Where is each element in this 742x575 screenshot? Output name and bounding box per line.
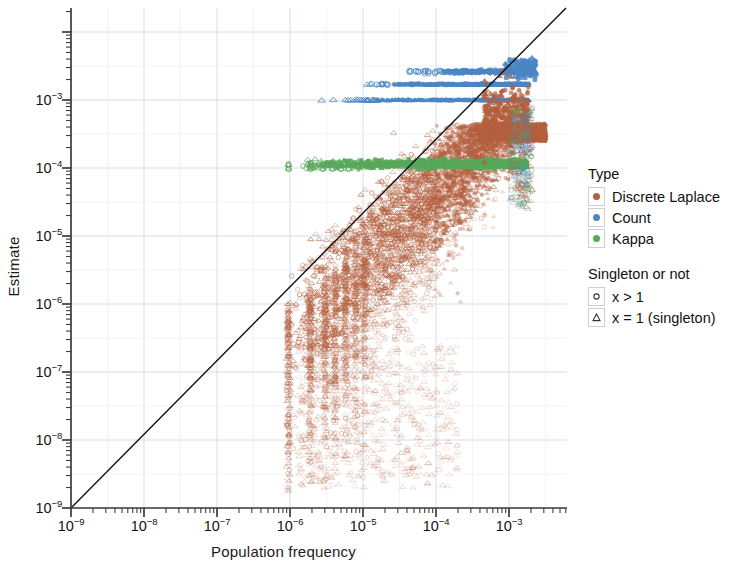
legend: Type Discrete LaplaceCountKappa Singleto… bbox=[588, 166, 742, 345]
tick-label: 10−4 bbox=[423, 516, 450, 534]
tick-label: 10−3 bbox=[496, 516, 523, 534]
scatter-plot-figure: Population frequency Estimate 10−910−810… bbox=[0, 0, 742, 575]
legend-group-singleton: Singleton or not x > 1x = 1 (singleton) bbox=[588, 266, 742, 328]
legend-item-label: x = 1 (singleton) bbox=[612, 310, 716, 326]
tick-label: 10−3 bbox=[4, 90, 62, 108]
tick-label: 10−7 bbox=[4, 362, 62, 380]
legend-color-swatch bbox=[588, 187, 605, 206]
tick-label: 10−6 bbox=[277, 516, 304, 534]
legend-item-type-2[interactable]: Kappa bbox=[588, 228, 742, 249]
circle-marker-icon bbox=[591, 291, 602, 302]
legend-item-label: Count bbox=[612, 210, 651, 226]
tick-label: 10−6 bbox=[4, 294, 62, 312]
tick-label: 10−7 bbox=[204, 516, 231, 534]
color-dot-icon bbox=[593, 193, 600, 200]
legend-title-type: Type bbox=[588, 166, 742, 182]
legend-item-label: Kappa bbox=[612, 231, 654, 247]
color-dot-icon bbox=[593, 235, 600, 242]
legend-item-type-0[interactable]: Discrete Laplace bbox=[588, 186, 742, 207]
tick-label: 10−8 bbox=[131, 516, 158, 534]
legend-item-singleton-0[interactable]: x > 1 bbox=[588, 286, 742, 307]
tick-label: 10−9 bbox=[4, 498, 62, 516]
color-dot-icon bbox=[593, 214, 600, 221]
legend-color-swatch bbox=[588, 208, 605, 227]
tick-label: 10−4 bbox=[4, 158, 62, 176]
tick-label: 10−5 bbox=[4, 226, 62, 244]
tick-label: 10−5 bbox=[350, 516, 377, 534]
legend-item-label: x > 1 bbox=[612, 289, 644, 305]
identity-reference-line bbox=[71, 8, 566, 508]
legend-item-singleton-1[interactable]: x = 1 (singleton) bbox=[588, 307, 742, 328]
tick-label: 10−8 bbox=[4, 430, 62, 448]
legend-color-swatch bbox=[588, 229, 605, 248]
legend-title-singleton: Singleton or not bbox=[588, 266, 742, 282]
legend-item-label: Discrete Laplace bbox=[612, 189, 720, 205]
legend-group-type: Type Discrete LaplaceCountKappa bbox=[588, 166, 742, 249]
legend-shape-swatch bbox=[588, 308, 605, 327]
x-axis-title: Population frequency bbox=[0, 543, 567, 560]
legend-item-type-1[interactable]: Count bbox=[588, 207, 742, 228]
triangle-marker-icon bbox=[591, 312, 602, 323]
tick-label: 10−9 bbox=[58, 516, 85, 534]
legend-shape-swatch bbox=[588, 287, 605, 306]
